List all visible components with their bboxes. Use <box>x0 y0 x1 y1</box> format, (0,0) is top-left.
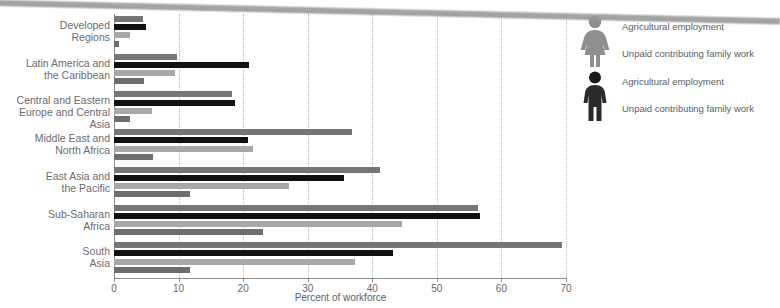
bar <box>114 100 235 106</box>
female-figure-icon <box>578 14 612 68</box>
x-tick <box>114 278 115 282</box>
bar <box>114 221 402 227</box>
bar <box>114 54 177 60</box>
bar <box>114 91 232 97</box>
x-tick <box>372 278 373 282</box>
bar <box>114 41 119 47</box>
bar <box>114 108 152 114</box>
category-label-line: the Caribbean <box>2 69 110 81</box>
bar-group <box>114 165 566 203</box>
male-figure-icon <box>580 70 610 122</box>
bar <box>114 62 249 68</box>
bar-group <box>114 89 566 127</box>
category-label-line: Central and Eastern <box>2 94 110 106</box>
x-tick <box>566 278 567 282</box>
category-label-line: Asia <box>2 257 110 269</box>
bar <box>114 205 478 211</box>
footer-strip <box>0 296 749 308</box>
bar <box>114 191 190 197</box>
category-label: Middle East andNorth Africa <box>2 132 110 156</box>
bar <box>114 116 130 122</box>
x-tick <box>437 278 438 282</box>
legend-label-female-unpaid: Unpaid contributing family work <box>622 48 754 59</box>
category-label: East Asia andthe Pacific <box>2 170 110 194</box>
bar <box>114 213 480 219</box>
legend-label-female-agricultural: Agricultural employment <box>622 21 724 32</box>
category-label-line: North Africa <box>2 144 110 156</box>
category-label-line: Europe and Central Asia <box>2 106 110 130</box>
category-label-line: the Pacific <box>2 182 110 194</box>
bar <box>114 242 562 248</box>
bar <box>114 259 355 265</box>
plot-area <box>114 14 566 278</box>
bar <box>114 183 289 189</box>
category-label-line: Middle East and <box>2 132 110 144</box>
legend: Agricultural employment Unpaid contribut… <box>578 8 749 126</box>
category-label: Sub-SaharanAfrica <box>2 208 110 232</box>
bar <box>114 154 153 160</box>
bar <box>114 129 352 135</box>
bar <box>114 32 130 38</box>
x-tick <box>308 278 309 282</box>
bar-group <box>114 240 566 278</box>
bar <box>114 267 190 273</box>
bar <box>114 167 380 173</box>
x-axis-line <box>114 278 567 279</box>
bar <box>114 175 344 181</box>
category-label-line: Africa <box>2 220 110 232</box>
bar <box>114 250 393 256</box>
x-tick <box>243 278 244 282</box>
bar <box>114 70 175 76</box>
bar-group <box>114 14 566 52</box>
bar-group <box>114 203 566 241</box>
category-label-line: Developed <box>2 19 110 31</box>
legend-label-male-unpaid: Unpaid contributing family work <box>622 103 754 114</box>
x-tick <box>501 278 502 282</box>
legend-label-male-agricultural: Agricultural employment <box>622 76 724 87</box>
category-axis-labels: DevelopedRegionsLatin America andthe Car… <box>0 14 110 278</box>
category-label-line: East Asia and <box>2 170 110 182</box>
category-label-line: Regions <box>2 31 110 43</box>
category-label: Central and EasternEurope and Central As… <box>2 94 110 130</box>
category-label: DevelopedRegions <box>2 19 110 43</box>
bar <box>114 229 263 235</box>
bar <box>114 78 144 84</box>
bar <box>114 24 146 30</box>
bar <box>114 146 253 152</box>
x-tick <box>179 278 180 282</box>
bar <box>114 16 143 22</box>
category-label-line: Latin America and <box>2 57 110 69</box>
bar-group <box>114 52 566 90</box>
category-label: SouthAsia <box>2 245 110 269</box>
category-label-line: South <box>2 245 110 257</box>
category-label: Latin America andthe Caribbean <box>2 57 110 81</box>
gridline <box>566 14 568 278</box>
bar-group <box>114 127 566 165</box>
category-label-line: Sub-Saharan <box>2 208 110 220</box>
bar <box>114 137 248 143</box>
